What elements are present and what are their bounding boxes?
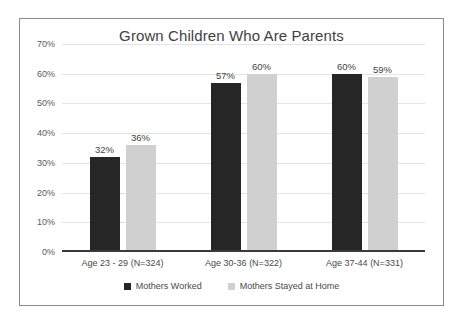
- bar-group-bars: 60%59%: [304, 44, 425, 252]
- legend-item[interactable]: Mothers Worked: [124, 281, 202, 291]
- bar-group-bars: 57%60%: [183, 44, 304, 252]
- bar[interactable]: [90, 157, 120, 252]
- y-axis-tick-label: 30%: [37, 158, 55, 168]
- y-axis-tick-label: 70%: [37, 39, 55, 49]
- bar[interactable]: [368, 77, 398, 252]
- y-axis-tick-label: 50%: [37, 98, 55, 108]
- legend-item[interactable]: Mothers Stayed at Home: [228, 281, 340, 291]
- bar-value-label: 57%: [216, 70, 235, 81]
- bar-group: 32%36%: [62, 44, 183, 252]
- bar-value-label: 36%: [131, 132, 150, 143]
- chart-legend: Mothers WorkedMothers Stayed at Home: [20, 281, 443, 291]
- bar-column: 59%: [368, 44, 398, 252]
- bar[interactable]: [211, 83, 241, 252]
- bar-column: 60%: [247, 44, 277, 252]
- bar-group-bars: 32%36%: [62, 44, 183, 252]
- bar[interactable]: [126, 145, 156, 252]
- x-axis-category-label: Age 37-44 (N=331): [304, 258, 425, 268]
- bar-value-label: 32%: [95, 144, 114, 155]
- legend-swatch-icon: [228, 283, 235, 290]
- bar[interactable]: [247, 74, 277, 252]
- y-axis-tick-label: 60%: [37, 69, 55, 79]
- bar-groups: 32%36%57%60%60%59%: [62, 44, 425, 252]
- y-axis-tick-label: 20%: [37, 188, 55, 198]
- chart-title: Grown Children Who Are Parents: [20, 27, 443, 44]
- legend-label: Mothers Stayed at Home: [240, 281, 340, 291]
- x-axis-category-label: Age 23 - 29 (N=324): [62, 258, 183, 268]
- bar-value-label: 60%: [337, 61, 356, 72]
- bar-group: 60%59%: [304, 44, 425, 252]
- bar-value-label: 60%: [252, 61, 271, 72]
- legend-label: Mothers Worked: [136, 281, 202, 291]
- bar-column: 32%: [90, 44, 120, 252]
- legend-swatch-icon: [124, 283, 131, 290]
- bar-value-label: 59%: [373, 64, 392, 75]
- y-axis-tick-label: 40%: [37, 128, 55, 138]
- bar-column: 60%: [332, 44, 362, 252]
- bar-column: 57%: [211, 44, 241, 252]
- plot-area: 70%60%50%40%30%20%10%0% 32%36%57%60%60%5…: [62, 44, 425, 252]
- x-axis-line: [62, 250, 425, 252]
- bar-group: 57%60%: [183, 44, 304, 252]
- bar[interactable]: [332, 74, 362, 252]
- x-axis-category-label: Age 30-36 (N=322): [183, 258, 304, 268]
- y-axis-tick-label: 10%: [37, 217, 55, 227]
- y-axis-tick-label: 0%: [42, 247, 55, 257]
- bar-column: 36%: [126, 44, 156, 252]
- chart-frame: Grown Children Who Are Parents 70%60%50%…: [19, 18, 444, 306]
- x-axis-category-labels: Age 23 - 29 (N=324)Age 30-36 (N=322)Age …: [62, 258, 425, 268]
